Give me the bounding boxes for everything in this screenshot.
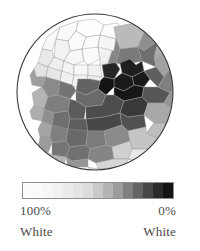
map-regions-group: [30, 19, 176, 173]
map-region: [162, 137, 176, 163]
legend-value-labels: 100% 0%: [20, 203, 176, 221]
legend-swatch: [113, 183, 123, 198]
legend-group-labels: White White: [20, 224, 176, 244]
map-region: [66, 145, 90, 161]
legend-swatch: [153, 183, 163, 198]
legend-swatch: [63, 183, 73, 198]
legend-right-value: 0%: [158, 203, 176, 219]
legend-swatch: [53, 183, 63, 198]
legend-right-group: White: [143, 224, 176, 240]
legend: [22, 182, 174, 199]
figure-container: 100% 0% White White: [0, 0, 200, 251]
legend-swatch: [133, 183, 143, 198]
legend-swatch: [143, 183, 153, 198]
legend-swatch: [73, 183, 83, 198]
legend-left-group: White: [20, 224, 53, 240]
legend-left-value: 100%: [20, 203, 51, 219]
map-area: [16, 7, 176, 177]
map-region: [44, 95, 70, 113]
legend-swatch: [103, 183, 113, 198]
map-region: [66, 129, 88, 147]
map-region: [168, 123, 176, 141]
legend-swatch: [23, 183, 33, 198]
map-region: [126, 163, 162, 173]
legend-swatch: [83, 183, 93, 198]
legend-swatch: [33, 183, 43, 198]
legend-swatch: [163, 183, 173, 198]
legend-color-bar: [22, 182, 174, 199]
legend-swatch: [93, 183, 103, 198]
choropleth-map-svg: [16, 7, 176, 177]
legend-swatch: [43, 183, 53, 198]
legend-swatch: [123, 183, 133, 198]
